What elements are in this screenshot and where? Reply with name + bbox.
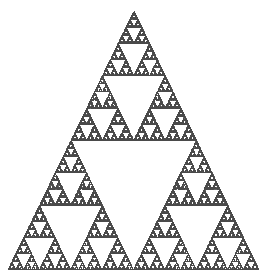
fractal-figure — [0, 0, 269, 274]
sierpinski-triangle-plot — [0, 0, 269, 274]
